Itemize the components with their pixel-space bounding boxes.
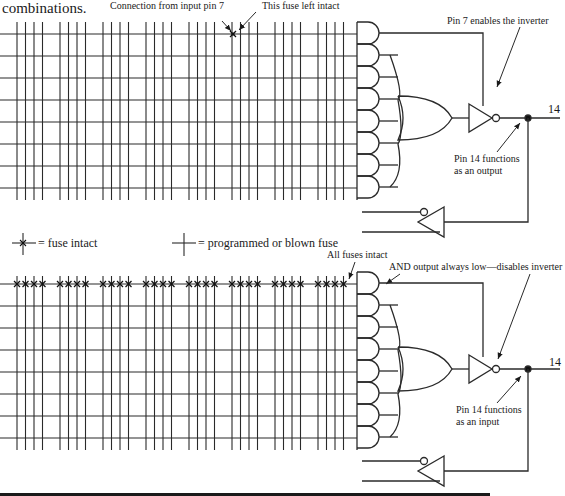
arrow-icon [497,123,520,152]
pal-fuse-diagram: combinations. Connection from input pin … [0,0,565,496]
top-fuse-array [0,22,357,200]
arrow-icon [239,12,256,30]
legend-fuse-intact-icon [12,233,36,255]
arrow-icon [349,262,355,279]
bottom-fuse-array [0,276,357,450]
arrow-icon [497,27,520,87]
pin-function-line1: Pin 14 functions [454,153,520,164]
pin-function-line1-bottom: Pin 14 functions [456,404,522,415]
header-text: combinations. [2,0,87,16]
bottom-logic-gates [357,272,560,486]
arrow-icon [497,376,521,403]
legend-blown-fuse-icon [172,233,196,256]
pin-function-line2: as an output [454,165,503,176]
pin-function-line2-bottom: as an input [456,416,500,427]
arrow-icon [222,21,231,31]
annotation-and-output: AND output always low—disables inverter [389,261,563,272]
annotation-fuse-intact: This fuse left intact [262,0,340,11]
annotation-all-fuses: All fuses intact [327,249,388,260]
annotation-connection: Connection from input pin 7 [110,0,224,11]
legend-fuse-intact: = fuse intact [38,236,98,250]
pin-14-label-bottom: 14 [549,355,561,369]
legend-blown-fuse: = programmed or blown fuse [198,236,338,250]
pin-14-label: 14 [548,102,560,116]
arrow-icon [498,274,530,359]
top-logic-gates [357,22,560,237]
annotation-enable: Pin 7 enables the inverter [447,15,549,26]
